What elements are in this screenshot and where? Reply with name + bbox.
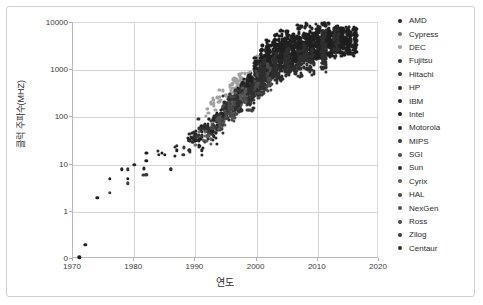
- scatter-point: [96, 196, 99, 199]
- scatter-point: [257, 97, 260, 100]
- legend-item-label: Intel: [409, 110, 424, 119]
- scatter-point: [221, 94, 224, 97]
- legend-item-ross[interactable]: Ross: [398, 215, 478, 228]
- legend-item-amd[interactable]: AMD: [398, 14, 478, 27]
- legend-marker-icon: [398, 179, 402, 183]
- x-tick-mark: [256, 258, 257, 261]
- scatter-point: [84, 243, 87, 246]
- x-axis-tick-marks: [72, 258, 378, 261]
- scatter-point: [188, 151, 191, 154]
- y-axis-tick-labels: 0110100100010000: [22, 22, 68, 258]
- x-tick-mark: [194, 258, 195, 261]
- scatter-point: [300, 74, 303, 77]
- legend-item-label: NexGen: [409, 204, 438, 213]
- scatter-point: [233, 116, 236, 119]
- legend-item-label: Motorola: [409, 123, 440, 132]
- legend-marker-icon: [398, 220, 402, 224]
- gridline-horizontal: [73, 70, 377, 71]
- legend-item-intel[interactable]: Intel: [398, 108, 478, 121]
- legend-marker-icon: [398, 59, 402, 63]
- legend-marker-icon: [398, 246, 402, 250]
- scatter-point: [145, 159, 148, 162]
- legend-item-label: IBM: [409, 97, 423, 106]
- x-axis-title: 연도: [72, 274, 378, 289]
- legend-item-cypress[interactable]: Cypress: [398, 27, 478, 40]
- scatter-point: [126, 177, 129, 180]
- scatter-point: [181, 153, 184, 156]
- legend-item-fujitsu[interactable]: Fujitsu: [398, 54, 478, 67]
- legend-item-label: Sun: [409, 163, 423, 172]
- legend-item-label: HAL: [409, 190, 425, 199]
- scatter-point: [252, 101, 255, 104]
- legend-marker-icon: [398, 126, 402, 130]
- legend-item-label: HP: [409, 83, 420, 92]
- legend-item-sun[interactable]: Sun: [398, 161, 478, 174]
- scatter-point: [218, 100, 221, 103]
- legend-item-centaur[interactable]: Centaur: [398, 242, 478, 255]
- legend-marker-icon: [398, 166, 402, 170]
- legend-item-label: DEC: [409, 43, 426, 52]
- scatter-point: [108, 177, 111, 180]
- legend-item-hp[interactable]: HP: [398, 81, 478, 94]
- legend-marker-icon: [398, 32, 402, 36]
- legend-item-nexgen[interactable]: NexGen: [398, 201, 478, 214]
- scatter-point: [324, 71, 327, 74]
- legend-marker-icon: [398, 72, 402, 76]
- legend-item-label: Centaur: [409, 244, 437, 253]
- scatter-point: [355, 34, 358, 37]
- scatter-point: [209, 142, 212, 145]
- x-tick-label: 2000: [247, 262, 265, 271]
- scatter-point: [126, 182, 129, 185]
- y-tick-label: 100: [55, 112, 68, 121]
- x-tick-mark: [317, 258, 318, 261]
- scatter-point: [145, 173, 148, 176]
- x-tick-mark: [133, 258, 134, 261]
- scatter-point: [163, 153, 166, 156]
- legend-item-label: Fujitsu: [409, 56, 433, 65]
- legend-item-zilog[interactable]: Zilog: [398, 228, 478, 241]
- x-tick-label: 1990: [185, 262, 203, 271]
- legend-item-sgi[interactable]: SGI: [398, 148, 478, 161]
- scatter-point: [205, 140, 208, 143]
- legend-marker-icon: [398, 153, 402, 157]
- legend-marker-icon: [398, 19, 402, 23]
- gridline-horizontal: [73, 165, 377, 166]
- scatter-point: [269, 88, 272, 91]
- legend-item-motorola[interactable]: Motorola: [398, 121, 478, 134]
- legend-item-hal[interactable]: HAL: [398, 188, 478, 201]
- scatter-point: [260, 93, 263, 96]
- scatter-point: [248, 103, 251, 106]
- scatter-point: [142, 167, 145, 170]
- legend-item-label: Hitachi: [409, 70, 433, 79]
- scatter-point: [343, 53, 346, 56]
- scatter-point: [221, 89, 224, 92]
- x-tick-mark: [72, 258, 73, 261]
- legend-item-ibm[interactable]: IBM: [398, 94, 478, 107]
- scatter-point: [221, 131, 224, 134]
- x-tick-label: 2020: [369, 262, 387, 271]
- scatter-point: [182, 146, 185, 149]
- gridline-vertical: [134, 23, 135, 257]
- legend-item-cyrix[interactable]: Cyrix: [398, 175, 478, 188]
- plot-area: [72, 22, 378, 258]
- scatter-point: [207, 111, 210, 114]
- scatter-point: [212, 98, 215, 101]
- scatter-point: [120, 167, 123, 170]
- x-tick-label: 2010: [308, 262, 326, 271]
- legend-marker-icon: [398, 45, 402, 49]
- y-tick-label: 10: [59, 159, 68, 168]
- scatter-point: [157, 153, 160, 156]
- y-tick-label: 1000: [50, 65, 68, 74]
- x-tick-label: 1970: [63, 262, 81, 271]
- legend-item-label: MIPS: [409, 137, 429, 146]
- legend-item-mips[interactable]: MIPS: [398, 135, 478, 148]
- scatter-point: [175, 149, 178, 152]
- scatter-point: [126, 167, 129, 170]
- scatter-point: [298, 30, 301, 33]
- legend-marker-icon: [398, 139, 402, 143]
- legend-item-hitachi[interactable]: Hitachi: [398, 68, 478, 81]
- legend-item-dec[interactable]: DEC: [398, 41, 478, 54]
- x-tick-label: 1980: [124, 262, 142, 271]
- scatter-point: [197, 118, 200, 121]
- scatter-point: [173, 154, 176, 157]
